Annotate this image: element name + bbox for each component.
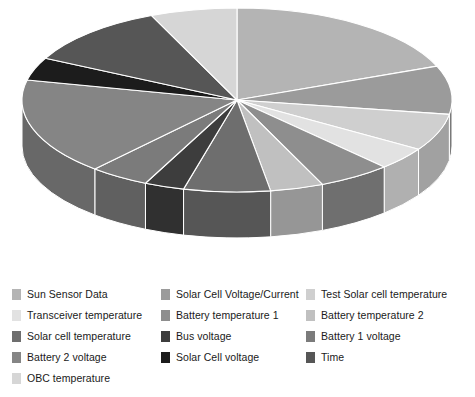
pie-slice-side [145, 183, 183, 235]
legend-label: Test Solar cell temperature [321, 288, 447, 300]
legend-item: Battery temperature 2 [306, 305, 471, 325]
legend-label: OBC temperature [27, 372, 110, 384]
pie-slice-side [184, 189, 271, 238]
legend-label: Solar Cell Voltage/Current [176, 288, 299, 300]
legend-item: Transceiver temperature [12, 305, 162, 325]
legend-swatch-icon [161, 331, 170, 342]
pie-chart-page: Sun Sensor DataSolar Cell Voltage/Curren… [0, 0, 475, 397]
legend-swatch-icon [306, 289, 315, 300]
legend-swatch-icon [161, 310, 170, 321]
legend-swatch-icon [161, 289, 170, 300]
chart-legend: Sun Sensor DataTransceiver temperatureSo… [0, 284, 475, 397]
legend-item: Battery temperature 1 [161, 305, 306, 325]
legend-label: Bus voltage [176, 330, 231, 342]
legend-column-2: Solar Cell Voltage/CurrentBattery temper… [161, 284, 306, 368]
legend-swatch-icon [161, 352, 170, 363]
legend-swatch-icon [306, 352, 315, 363]
legend-label: Solar cell temperature [27, 330, 131, 342]
legend-label: Time [321, 351, 344, 363]
legend-swatch-icon [306, 310, 315, 321]
legend-item: Solar cell temperature [12, 326, 162, 346]
legend-swatch-icon [12, 289, 21, 300]
legend-column-1: Sun Sensor DataTransceiver temperatureSo… [12, 284, 162, 389]
pie-chart-area: Sun Sensor DataSolar Cell Voltage/Curren… [0, 0, 475, 280]
legend-swatch-icon [12, 352, 21, 363]
legend-label: Sun Sensor Data [27, 288, 108, 300]
legend-item: Battery 2 voltage [12, 347, 162, 367]
legend-item: Time [306, 347, 471, 367]
legend-label: Solar Cell voltage [176, 351, 259, 363]
legend-swatch-icon [12, 331, 21, 342]
legend-item: Solar Cell voltage [161, 347, 306, 367]
legend-label: Battery 1 voltage [321, 330, 401, 342]
legend-item: OBC temperature [12, 368, 162, 388]
legend-item: Bus voltage [161, 326, 306, 346]
legend-label: Transceiver temperature [27, 309, 142, 321]
pie-top-faces: Sun Sensor DataSolar Cell Voltage/Curren… [22, 8, 452, 192]
legend-swatch-icon [12, 310, 21, 321]
legend-item: Test Solar cell temperature [306, 284, 471, 304]
pie-slice-side [271, 184, 323, 236]
legend-swatch-icon [12, 373, 21, 384]
legend-column-3: Test Solar cell temperatureBattery tempe… [306, 284, 471, 368]
legend-label: Battery temperature 1 [176, 309, 279, 321]
legend-item: Solar Cell Voltage/Current [161, 284, 306, 304]
legend-label: Battery 2 voltage [27, 351, 107, 363]
legend-label: Battery temperature 2 [321, 309, 424, 321]
legend-swatch-icon [306, 331, 315, 342]
legend-item: Battery 1 voltage [306, 326, 471, 346]
pie-chart-svg: Sun Sensor DataSolar Cell Voltage/Curren… [0, 0, 475, 280]
legend-item: Sun Sensor Data [12, 284, 162, 304]
